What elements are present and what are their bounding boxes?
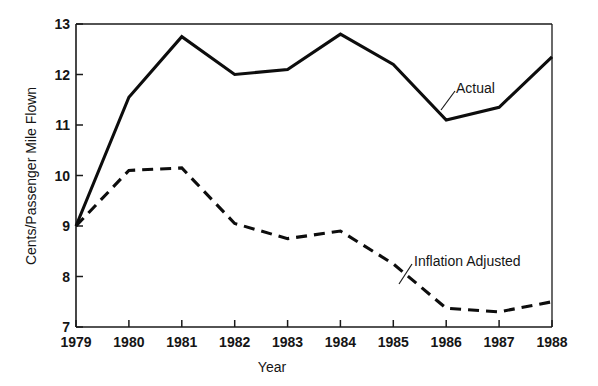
y-tick-label-10: 10 — [54, 168, 70, 184]
x-tick-label-1984: 1984 — [325, 334, 356, 350]
annotation-leader-actual — [441, 91, 455, 110]
plot-frame — [76, 24, 552, 327]
x-tick-label-1979: 1979 — [60, 334, 91, 350]
chart-container: 7 8 9 10 11 12 13 1979 1980 1981 1982 — [0, 0, 598, 386]
line-chart: 7 8 9 10 11 12 13 1979 1980 1981 1982 — [0, 0, 598, 386]
series-label-inflation-adjusted: Inflation Adjusted — [414, 253, 521, 269]
annotation-inflation-adjusted: Inflation Adjusted — [399, 253, 521, 284]
y-axis-ticks — [76, 24, 83, 327]
x-tick-label-1983: 1983 — [272, 334, 303, 350]
y-axis-title: Cents/Passenger Mile Flown — [23, 87, 39, 265]
y-tick-label-7: 7 — [62, 319, 70, 335]
annotation-actual: Actual — [441, 80, 495, 110]
annotation-leader-inflation-adjusted — [399, 264, 412, 284]
y-tick-label-8: 8 — [62, 269, 70, 285]
x-tick-label-1980: 1980 — [113, 334, 144, 350]
x-axis-ticks — [76, 320, 552, 327]
x-tick-label-1987: 1987 — [484, 334, 515, 350]
y-tick-label-11: 11 — [55, 117, 70, 133]
x-tick-label-1986: 1986 — [431, 334, 462, 350]
x-tick-label-1985: 1985 — [378, 334, 409, 350]
y-tick-label-12: 12 — [54, 67, 70, 83]
x-tick-label-1982: 1982 — [219, 334, 250, 350]
x-tick-label-1988: 1988 — [536, 334, 567, 350]
y-tick-label-13: 13 — [54, 16, 70, 32]
x-axis-title: Year — [258, 359, 287, 375]
series-line-inflation-adjusted — [76, 168, 552, 312]
x-axis-tick-labels: 1979 1980 1981 1982 1983 1984 1985 1986 … — [60, 334, 567, 350]
y-axis-tick-labels: 7 8 9 10 11 12 13 — [54, 16, 70, 335]
series-label-actual: Actual — [456, 80, 495, 96]
y-tick-label-9: 9 — [62, 218, 70, 234]
x-tick-label-1981: 1981 — [166, 334, 197, 350]
series-line-actual — [76, 34, 552, 226]
